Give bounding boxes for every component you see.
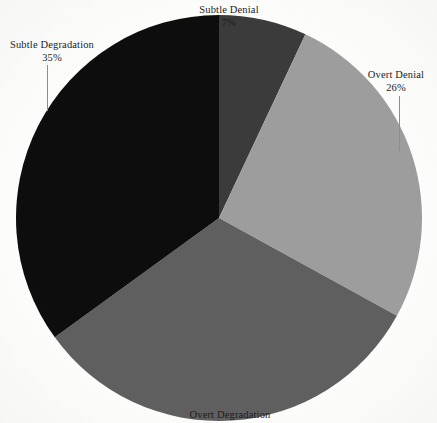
pie-label-subtle-denial-name: Subtle Denial [199,3,258,16]
pie-label-subtle-degradation-name: Subtle Degradation [10,38,94,51]
pie-label-overt-denial-name: Overt Denial [368,68,424,81]
leader-line-overt-denial [399,96,400,151]
pie-label-overt-degradation-name: Overt Degradation [190,408,271,421]
pie-label-subtle-denial-value: 7% [199,16,258,29]
pie-label-overt-denial: Overt Denial 26% [368,68,424,95]
pie-label-subtle-denial: Subtle Denial 7% [199,3,258,30]
pie-label-subtle-degradation-value: 35% [10,51,94,64]
pie-chart: Subtle Denial 7% Subtle Degradation 35% … [0,0,437,423]
pie-label-overt-denial-value: 26% [368,81,424,94]
pie-label-subtle-degradation: Subtle Degradation 35% [10,38,94,65]
pie-label-overt-degradation: Overt Degradation [190,408,271,421]
leader-line-subtle-degradation [47,65,48,111]
